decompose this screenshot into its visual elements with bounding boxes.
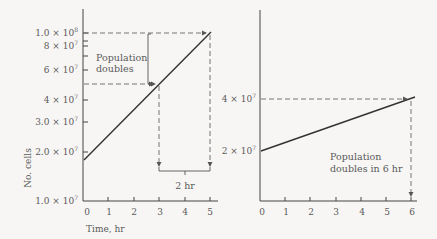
bracket-label: 2 hr xyxy=(175,180,195,191)
left-y-label-1: 8 × 107 xyxy=(44,39,78,51)
right-x-label-4: 4 xyxy=(359,207,365,217)
left-y-label-5: 2.0 × 107 xyxy=(35,145,78,157)
right-x-label-2: 2 xyxy=(308,207,314,217)
left-y-label-0: 1.0 × 108 xyxy=(35,26,78,38)
right-y-label-0: 4 × 107 xyxy=(222,92,256,104)
left-x-label-3: 3 xyxy=(157,207,163,217)
left-annotation-line2: doubles xyxy=(96,63,134,74)
right-x-label-6: 6 xyxy=(409,207,415,217)
right-x-label-1: 1 xyxy=(283,207,289,217)
two-hour-bracket xyxy=(159,167,210,175)
left-y-label-4: 3.0 × 107 xyxy=(35,115,78,127)
right-x-label-5: 5 xyxy=(384,207,390,217)
right-guides xyxy=(261,99,411,196)
left-x-title: Time, hr xyxy=(86,224,125,234)
figure: 1.0 × 108 8 × 107 6 × 107 4 × 107 3.0 × … xyxy=(0,0,437,239)
left-chart: 1.0 × 108 8 × 107 6 × 107 4 × 107 3.0 × … xyxy=(23,9,218,234)
doubling-arrow xyxy=(148,34,153,84)
left-x-label-1: 1 xyxy=(106,207,112,217)
right-x-label-0: 0 xyxy=(259,207,265,217)
left-y-ticks xyxy=(83,33,88,152)
left-x-label-2: 2 xyxy=(131,207,137,217)
right-x-label-3: 3 xyxy=(333,207,339,217)
right-y-label-1: 2 × 107 xyxy=(222,144,256,156)
left-x-label-0: 0 xyxy=(84,207,90,217)
right-annotation-line2: doubles in 6 hr xyxy=(330,163,403,174)
right-annotation-line1: Population xyxy=(330,151,381,162)
left-y-title: No. cells xyxy=(23,148,33,188)
right-data-line xyxy=(261,97,415,151)
left-y-label-6: 1.0 × 107 xyxy=(35,194,78,206)
right-chart: 4 × 107 2 × 107 0 1 2 3 4 5 6 Population… xyxy=(222,10,417,217)
left-y-label-3: 4 × 107 xyxy=(44,93,78,105)
left-x-label-4: 4 xyxy=(182,207,188,217)
right-x-ticks xyxy=(285,197,411,201)
left-x-ticks xyxy=(108,197,210,201)
left-annotation-line1: Population xyxy=(96,52,147,63)
left-x-label-5: 5 xyxy=(207,207,213,217)
left-y-label-2: 6 × 107 xyxy=(44,63,78,75)
